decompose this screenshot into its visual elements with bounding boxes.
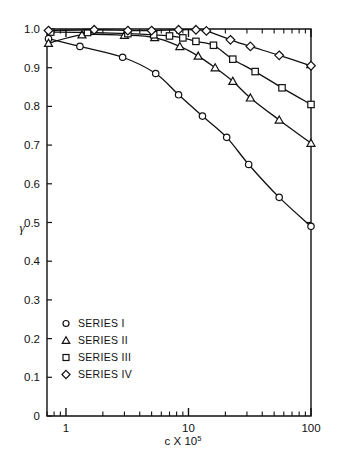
data-point-circle — [119, 54, 125, 60]
y-tick-label: 0.3 — [24, 294, 40, 306]
y-tick-label: 0.6 — [24, 178, 40, 190]
legend-marker-square — [63, 355, 69, 361]
data-point-square — [279, 85, 285, 91]
x-axis-title-exponent: 5 — [197, 434, 201, 443]
x-tick-label: 10 — [182, 422, 195, 434]
legend-label: SERIES III — [78, 351, 131, 363]
data-point-circle — [77, 43, 83, 49]
legend-marker-circle — [63, 321, 69, 327]
data-point-square — [193, 38, 199, 44]
data-point-square — [210, 42, 216, 48]
legend-label: SERIES I — [78, 317, 125, 329]
y-tick-label: 0.2 — [24, 333, 40, 345]
x-tick-label: 100 — [301, 422, 320, 434]
x-tick-label: 1 — [63, 422, 69, 434]
legend-label: SERIES IV — [78, 368, 132, 380]
chart-background — [0, 0, 339, 458]
data-point-circle — [276, 194, 282, 200]
data-point-square — [230, 56, 236, 62]
y-tick-label: 1.0 — [24, 23, 40, 35]
y-tick-label: 0.7 — [24, 139, 40, 151]
data-point-square — [252, 68, 258, 74]
y-tick-label: 0.8 — [24, 100, 40, 112]
x-axis-title-base: c X 10 — [165, 435, 198, 447]
legend-label: SERIES II — [78, 334, 128, 346]
data-point-square — [308, 101, 314, 107]
data-point-circle — [223, 134, 229, 140]
y-tick-label: 0.1 — [24, 371, 40, 383]
data-point-square — [166, 33, 172, 39]
data-point-circle — [199, 113, 205, 119]
y-axis-title: γ — [19, 220, 25, 235]
y-tick-label: 0 — [34, 410, 40, 422]
data-point-square — [180, 35, 186, 41]
y-tick-label: 0.4 — [24, 255, 41, 267]
data-point-circle — [175, 92, 181, 98]
data-point-circle — [245, 161, 251, 167]
y-tick-label: 0.9 — [24, 62, 40, 74]
y-tick-label: 0.5 — [24, 217, 40, 229]
figure-container: 00.10.20.30.40.50.60.70.80.91.0 110100 S… — [0, 0, 339, 458]
line-chart: 00.10.20.30.40.50.60.70.80.91.0 110100 S… — [0, 0, 339, 458]
x-axis-title: c X 105 — [165, 434, 202, 447]
data-point-circle — [153, 70, 159, 76]
data-point-circle — [308, 223, 314, 229]
